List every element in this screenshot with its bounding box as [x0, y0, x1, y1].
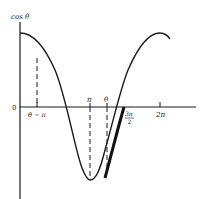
tick-label-2pi: 2π — [155, 111, 165, 119]
tick-label-theta: θ — [104, 96, 109, 104]
tick-label-3pi-num: 3π — [125, 110, 134, 117]
y-axis-label: cos θ — [11, 13, 30, 21]
origin-label: 0 — [12, 104, 16, 112]
highlighted-segment — [105, 107, 124, 178]
tick-label-pi: π — [86, 96, 92, 104]
cosine-diagram: cos θ 0 θ − π π θ 3π 2 2π — [0, 0, 204, 199]
tick-label-3pi-den: 2 — [128, 118, 132, 125]
tick-label-theta-minus-pi: θ − π — [28, 111, 46, 119]
